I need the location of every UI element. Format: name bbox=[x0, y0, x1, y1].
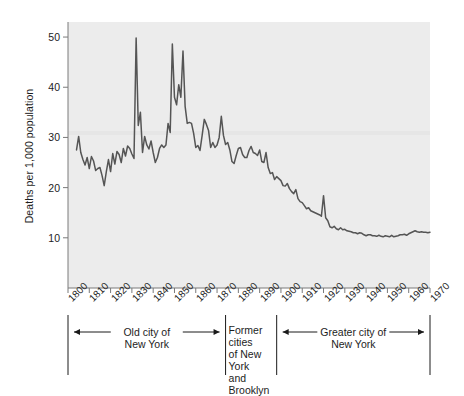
band-label-line: and Brooklyn bbox=[229, 372, 276, 396]
y-tick-label: 50 bbox=[26, 31, 60, 43]
y-tick-label: 10 bbox=[26, 232, 60, 244]
band-arrow-head-left-icon bbox=[74, 329, 80, 335]
band-label-line: of New York bbox=[229, 348, 276, 372]
band-arrow-head-left-icon bbox=[283, 329, 289, 335]
band-label-former-cities-of-new-york-and-brooklyn: Former citiesof New Yorkand Brooklyn bbox=[229, 324, 276, 396]
band-label-line: Greater city of bbox=[303, 326, 403, 338]
band-label-old-city-of-new-york: Old city ofNew York bbox=[97, 326, 197, 350]
band-arrow-head-right-icon bbox=[214, 329, 220, 335]
panel-shading-artifact bbox=[68, 131, 430, 135]
band-label-line: New York bbox=[303, 338, 403, 350]
y-tick-label: 30 bbox=[26, 131, 60, 143]
y-tick-label: 40 bbox=[26, 81, 60, 93]
band-label-line: Former cities bbox=[229, 324, 276, 348]
band-label-line: Old city of bbox=[97, 326, 197, 338]
band-label-greater-city-of-new-york: Greater city ofNew York bbox=[303, 326, 403, 350]
band-arrow-head-right-icon bbox=[418, 329, 424, 335]
y-tick-label: 20 bbox=[26, 182, 60, 194]
band-label-line: New York bbox=[97, 338, 197, 350]
